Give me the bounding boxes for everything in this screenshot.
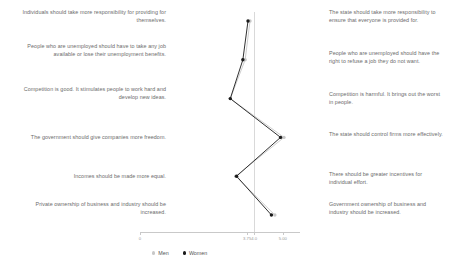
legend-marker-women [183,251,186,254]
legend-item-women[interactable]: Women [183,250,208,256]
right-statement-5: There should be greater incentives for i… [329,170,444,187]
right-statement-1: The state should take more responsibilit… [329,8,444,25]
x-axis: 03.754.05.00 [140,232,300,250]
axis-tick-label: 5.00 [279,236,287,241]
right-statement-2: People who are unemployed should have th… [329,49,444,66]
axis-tick-label: 3.75 [243,236,251,241]
right-statement-6: Government ownership of business and ind… [329,200,444,217]
legend-label-men: Men [158,250,169,256]
plot-area [140,12,286,232]
chart-legend: Men Women [152,250,207,256]
axis-tick [140,232,141,235]
chart-figure: Individuals should take more responsibil… [0,0,451,270]
axis-tick-label: 0 [139,236,141,241]
right-statement-4: The state should control firms more effe… [329,130,444,138]
axis-line [140,232,300,233]
series-lines [140,12,286,232]
axis-tick-label: 4.0 [251,236,257,241]
legend-item-men[interactable]: Men [152,250,169,256]
legend-marker-men [152,251,155,254]
axis-tick [283,232,284,235]
right-statement-3: Competition is harmful. It brings out th… [329,90,444,107]
legend-label-women: Women [189,250,207,256]
axis-tick [247,232,248,235]
axis-tick [254,232,255,235]
